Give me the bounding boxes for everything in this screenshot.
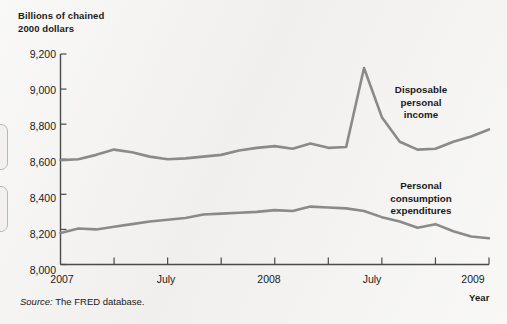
- chart-figure: Billions of chained 2000 dollars Year 9,…: [0, 0, 507, 324]
- plot-area: [0, 0, 507, 324]
- line-disposable-personal-income: [61, 68, 490, 160]
- x-axis-ticks: [114, 258, 489, 265]
- axes: [61, 54, 490, 265]
- series-lines: [61, 68, 490, 238]
- line-personal-consumption-expenditures: [61, 207, 490, 239]
